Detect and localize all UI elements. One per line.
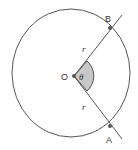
label-radius-upper: r xyxy=(82,44,86,54)
label-angle: θ xyxy=(79,72,84,82)
label-center: O xyxy=(61,72,68,82)
angle-sector xyxy=(74,61,94,91)
point-a xyxy=(108,124,112,128)
circle xyxy=(12,9,130,137)
circle-sector-diagram: O θ r r B A xyxy=(0,0,138,150)
label-point-a: A xyxy=(106,135,112,145)
point-b xyxy=(108,26,112,30)
center-point xyxy=(72,74,76,78)
label-point-b: B xyxy=(105,14,111,24)
label-radius-lower: r xyxy=(82,102,86,112)
